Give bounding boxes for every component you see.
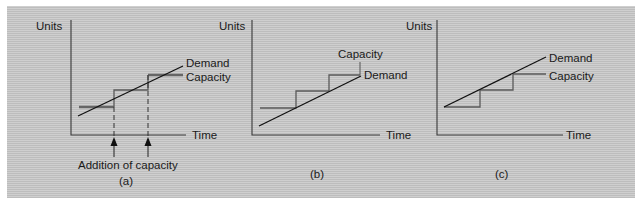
panel-a-x-axis-label: Time <box>192 129 217 141</box>
panel-c-capacity-label: Capacity <box>549 70 594 82</box>
panel-a-annotation: Addition of capacity <box>78 159 178 171</box>
panel-c: Units Time Demand Capacity (c) <box>406 20 594 180</box>
panel-b-demand-line <box>259 76 361 126</box>
panel-b-axes <box>252 20 380 135</box>
panel-b-capacity-line <box>260 75 360 108</box>
panel-c-demand-line <box>444 57 546 107</box>
panel-b-x-axis-label: Time <box>386 129 411 141</box>
panel-a-demand-label: Demand <box>186 57 229 69</box>
panel-a-up-arrow-1-icon <box>111 137 118 157</box>
capacity-strategy-diagram: Units Time Demand Capacity Addition of c… <box>0 0 639 208</box>
panel-c-capacity-line <box>444 74 546 107</box>
panel-b: Units Time Capacity Demand (b) <box>219 20 411 180</box>
panel-c-x-axis-label: Time <box>566 129 591 141</box>
panel-c-y-axis-label: Units <box>406 20 432 32</box>
panel-a: Units Time Demand Capacity Addition of c… <box>36 20 231 187</box>
panel-a-demand-line <box>78 66 183 116</box>
panel-a-axes <box>71 20 186 135</box>
panel-b-demand-label: Demand <box>364 69 407 81</box>
panel-b-caption: (b) <box>310 168 324 180</box>
panel-a-up-arrow-2-icon <box>145 137 152 157</box>
panel-a-y-axis-label: Units <box>36 20 62 32</box>
panel-c-demand-label: Demand <box>549 52 592 64</box>
panel-a-caption: (a) <box>119 175 133 187</box>
panel-b-capacity-label: Capacity <box>338 48 383 60</box>
panel-a-capacity-label: Capacity <box>186 71 231 83</box>
panel-b-y-axis-label: Units <box>219 20 245 32</box>
panel-c-caption: (c) <box>495 168 509 180</box>
panel-c-axes <box>437 20 563 135</box>
